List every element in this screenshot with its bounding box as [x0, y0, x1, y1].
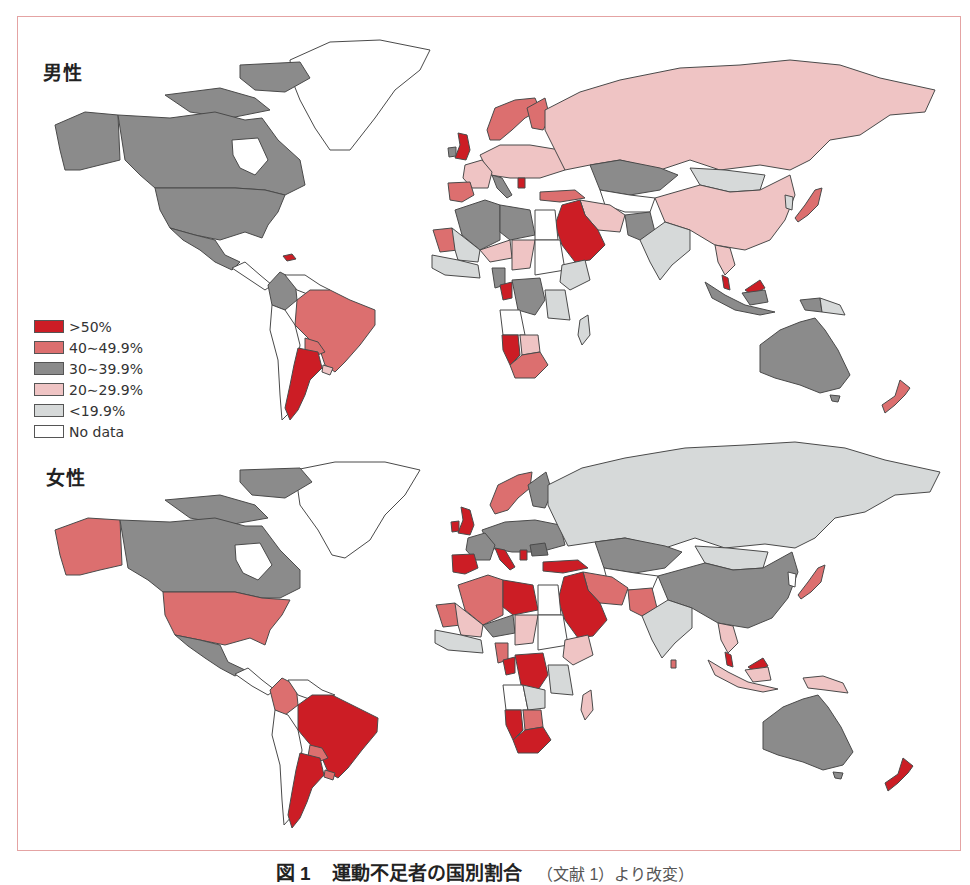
- region-east-africa: [545, 290, 570, 320]
- region-thailand: [715, 245, 735, 275]
- legend-label-c50: >50%: [69, 319, 112, 335]
- region-turkey: [543, 560, 588, 573]
- caption-source: （文献 1）より改変）: [537, 866, 694, 883]
- region-malaysia-peninsula: [722, 275, 730, 290]
- legend-item-c50: >50%: [34, 316, 143, 337]
- region-korea: [788, 572, 796, 587]
- legend-swatch-c20: [34, 383, 64, 396]
- region-spain: [448, 182, 474, 202]
- map-panel-women: 女性: [0, 440, 970, 850]
- region-japan: [795, 188, 822, 222]
- region-malaysia-peninsula: [725, 652, 733, 667]
- legend-item-c10: <19.9%: [34, 400, 143, 421]
- region-png: [820, 298, 845, 315]
- legend-swatch-c50: [34, 320, 64, 333]
- region-ireland: [448, 147, 456, 157]
- region-chad: [515, 615, 538, 645]
- legend-label-c20: 20∼29.9%: [69, 382, 143, 398]
- region-norway-sweden: [490, 472, 532, 514]
- region-korea: [785, 195, 793, 210]
- legend-label-c30: 30∼39.9%: [69, 361, 143, 377]
- legend-item-nd: No data: [34, 421, 143, 442]
- region-tasmania: [830, 395, 840, 402]
- region-canada: [118, 112, 305, 195]
- region-dr-congo: [512, 278, 545, 315]
- region-central-america: [232, 262, 272, 290]
- legend-item-c20: 20∼29.9%: [34, 379, 143, 400]
- region-serbia: [520, 550, 527, 560]
- region-spain: [452, 554, 478, 574]
- region-central-america: [235, 668, 275, 695]
- region-australia: [760, 318, 850, 393]
- world-map-men: [0, 0, 970, 440]
- region-png-west: [800, 298, 822, 312]
- region-ethiopia: [560, 260, 590, 290]
- region-chad: [512, 240, 535, 270]
- region-egypt: [538, 585, 561, 615]
- region-tasmania: [833, 772, 843, 779]
- caption-label: 図 1: [276, 863, 311, 884]
- region-romania: [530, 543, 548, 556]
- region-congo: [503, 657, 515, 675]
- legend-label-c10: <19.9%: [69, 403, 125, 419]
- region-alaska: [55, 112, 120, 170]
- region-ethiopia: [563, 635, 593, 665]
- legend-swatch-c10: [34, 404, 64, 417]
- region-dr-congo: [515, 653, 548, 690]
- region-australia: [763, 695, 853, 770]
- region-egypt: [535, 210, 558, 240]
- region-uk: [458, 507, 474, 535]
- region-borneo: [745, 667, 771, 682]
- region-alaska: [55, 518, 122, 575]
- figure-caption: 図 1 運動不足者の国別割合 （文献 1）より改変）: [0, 858, 970, 885]
- region-canada: [120, 518, 300, 598]
- legend-label-nd: No data: [69, 424, 124, 440]
- region-libya: [503, 580, 538, 615]
- region-madagascar: [578, 315, 590, 345]
- map-panel-men: 男性: [0, 0, 970, 440]
- region-japan: [798, 565, 825, 599]
- region-borneo: [742, 290, 768, 305]
- world-map-women: [0, 440, 970, 850]
- region-png: [803, 676, 848, 693]
- region-angola: [500, 310, 525, 335]
- legend-swatch-nd: [34, 425, 64, 438]
- caption-title: 運動不足者の国別割合: [332, 863, 522, 884]
- region-central-europe: [480, 145, 565, 178]
- legend-swatch-c30: [34, 362, 64, 375]
- region-italy: [492, 175, 512, 198]
- legend-item-c30: 30∼39.9%: [34, 358, 143, 379]
- region-russia: [548, 442, 940, 548]
- region-greenland: [290, 40, 430, 150]
- legend-item-c40: 40∼49.9%: [34, 337, 143, 358]
- legend: >50% 40∼49.9% 30∼39.9% 20∼29.9% <19.9% N…: [34, 316, 143, 442]
- region-thailand: [718, 623, 738, 653]
- region-greenland: [295, 462, 420, 558]
- region-east-africa: [548, 665, 573, 695]
- region-congo: [500, 282, 512, 300]
- region-libya: [500, 205, 535, 240]
- region-ireland: [451, 521, 459, 532]
- legend-swatch-c40: [34, 341, 64, 354]
- region-dominican-republic: [283, 254, 296, 261]
- region-sri-lanka: [671, 660, 676, 668]
- legend-label-c40: 40∼49.9%: [69, 340, 143, 356]
- region-new-zealand: [882, 380, 910, 413]
- region-serbia: [518, 178, 525, 188]
- region-sudan: [535, 240, 565, 275]
- region-madagascar: [581, 690, 593, 720]
- region-sudan: [538, 615, 568, 650]
- region-russia: [545, 60, 935, 170]
- region-new-zealand: [885, 758, 913, 791]
- region-uk: [455, 133, 470, 160]
